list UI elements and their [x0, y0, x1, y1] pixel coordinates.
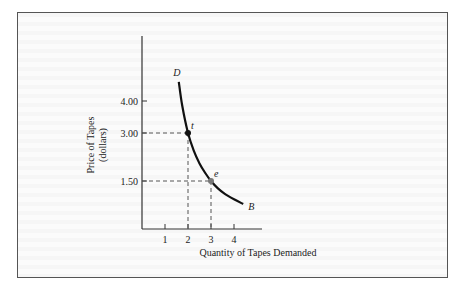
x-axis-label: Quantity of Tapes Demanded: [199, 247, 316, 258]
y-axis-label: Price of Tapes: [85, 116, 96, 173]
demand-curve: DB: [172, 67, 254, 212]
x-tick-label: 2: [186, 234, 191, 245]
y-tick-label: 1.50: [121, 176, 139, 187]
point-label-t: t: [191, 120, 194, 131]
y-axis-unit: (dollars): [97, 128, 109, 162]
guide-lines: [142, 133, 211, 229]
curve-end-label: B: [248, 201, 254, 212]
demand-chart: 12341.503.004.00 DB te Quantity of Tapes…: [0, 0, 462, 296]
x-tick-label: 4: [232, 234, 237, 245]
curve-start-label: D: [172, 67, 181, 78]
x-tick-label: 1: [163, 234, 168, 245]
data-points: te: [185, 120, 219, 184]
y-tick-label: 4.00: [121, 96, 139, 107]
x-tick-label: 3: [209, 234, 214, 245]
y-tick-label: 3.00: [121, 128, 139, 139]
point-label-e: e: [214, 168, 219, 179]
